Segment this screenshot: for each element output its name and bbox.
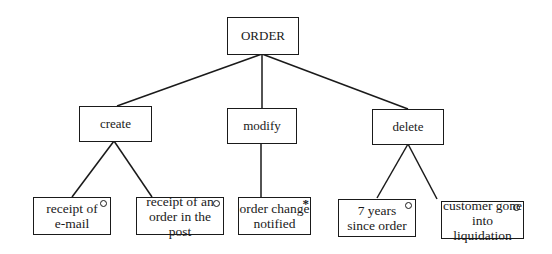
leaf-node-seven-years: 7 years since order bbox=[338, 199, 416, 237]
leaf-node-receipt-post: receipt of an order in the post bbox=[136, 197, 224, 235]
root-node-order: ORDER bbox=[227, 17, 299, 55]
leaf-node-liquidation: customer gone into liquidation bbox=[441, 201, 524, 239]
node-label: order change notified bbox=[239, 201, 309, 231]
asterisk-marker-icon: * bbox=[303, 199, 310, 209]
node-label: ORDER bbox=[241, 29, 285, 43]
edge-delete-7years bbox=[377, 144, 408, 198]
edge-create-post bbox=[114, 141, 152, 197]
node-label: delete bbox=[392, 120, 423, 134]
event-node-modify: modify bbox=[227, 108, 297, 144]
edge-order-create bbox=[117, 54, 262, 106]
edge-create-email bbox=[72, 141, 114, 197]
circle-marker-icon bbox=[100, 200, 107, 207]
node-label: create bbox=[100, 117, 131, 131]
leaf-node-receipt-email: receipt of e-mail bbox=[33, 197, 111, 235]
node-label: customer gone into liquidation bbox=[442, 198, 523, 243]
node-label: receipt of an order in the post bbox=[137, 194, 223, 239]
node-label: receipt of e-mail bbox=[46, 201, 97, 231]
node-label: 7 years since order bbox=[347, 203, 407, 233]
edge-order-delete bbox=[262, 54, 408, 109]
event-node-create: create bbox=[79, 106, 152, 142]
leaf-node-order-change: order change notified * bbox=[238, 197, 311, 235]
event-node-delete: delete bbox=[372, 109, 444, 145]
circle-marker-icon bbox=[513, 204, 520, 211]
node-label: modify bbox=[243, 119, 281, 133]
circle-marker-icon bbox=[213, 200, 220, 207]
circle-marker-icon bbox=[405, 202, 412, 209]
edge-delete-liquidation bbox=[408, 144, 437, 199]
